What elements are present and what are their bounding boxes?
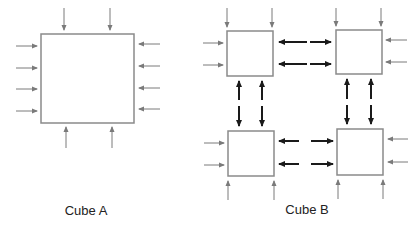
cube-b-box-top-right — [336, 30, 382, 74]
cube-b-box-bottom-left — [228, 131, 274, 176]
cube-a-label: Cube A — [65, 203, 108, 218]
cube-b-internal-arrows — [239, 42, 371, 164]
cube-b-label: Cube B — [285, 202, 328, 217]
cube-a-incoming-arrows — [16, 8, 160, 148]
diagram-canvas — [0, 0, 417, 234]
cube-b-external-arrows — [203, 8, 408, 200]
cube-a — [16, 8, 160, 148]
cube-a-box — [41, 34, 134, 123]
cube-b-box-bottom-right — [337, 129, 383, 175]
cube-b — [203, 8, 408, 200]
cube-b-box-top-left — [227, 31, 273, 76]
